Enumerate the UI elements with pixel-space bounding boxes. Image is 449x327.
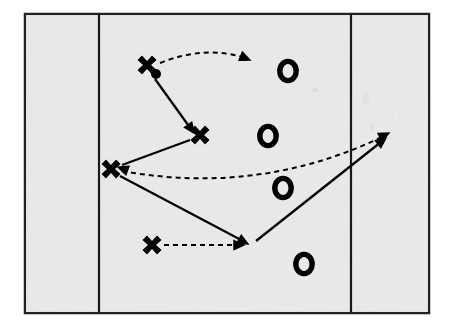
scan-smudge-1 <box>311 88 319 92</box>
field-texture-overlay-vertical <box>26 15 428 312</box>
play-diagram-canvas <box>0 0 449 327</box>
scan-smudge-4 <box>157 287 163 290</box>
play-diagram-root <box>0 0 449 327</box>
field <box>25 14 429 313</box>
ball-icon <box>151 69 161 79</box>
scan-smudge-2 <box>363 91 369 105</box>
scan-smudge-3 <box>370 123 374 131</box>
